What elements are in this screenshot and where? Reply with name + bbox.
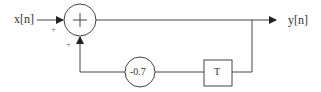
block-diagram: x[n] + + y[n] -0.7 T — [0, 0, 321, 92]
delay-label: T — [214, 67, 220, 77]
feedback-sign: + — [66, 40, 71, 49]
feedback-tap-line — [232, 20, 252, 72]
input-label: x[n] — [14, 13, 34, 25]
feedback-arrow — [80, 37, 125, 72]
input-sign: + — [51, 25, 56, 34]
gain-label: -0.7 — [130, 67, 146, 77]
output-label: y[n] — [288, 14, 308, 26]
diagram-canvas — [0, 0, 321, 92]
